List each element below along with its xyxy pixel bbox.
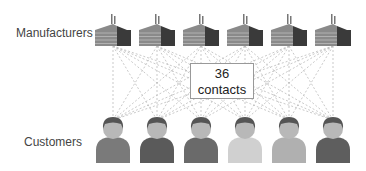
network-diagram (0, 0, 366, 171)
customer-icons (96, 117, 350, 163)
customer-icon (184, 117, 218, 163)
customer-icon (140, 117, 174, 163)
factory-icon (315, 14, 351, 46)
manufacturer-icons (95, 14, 351, 46)
factory-icon (183, 14, 219, 46)
factory-icon (139, 14, 175, 46)
factory-icon (95, 14, 131, 46)
customer-icon (228, 117, 262, 163)
factory-icon (271, 14, 307, 46)
contacts-box: 36 contacts (190, 63, 254, 99)
factory-icon (227, 14, 263, 46)
contacts-count: 36 (191, 66, 253, 82)
contacts-label: contacts (191, 82, 253, 98)
customer-icon (316, 117, 350, 163)
customer-icon (272, 117, 306, 163)
customer-icon (96, 117, 130, 163)
